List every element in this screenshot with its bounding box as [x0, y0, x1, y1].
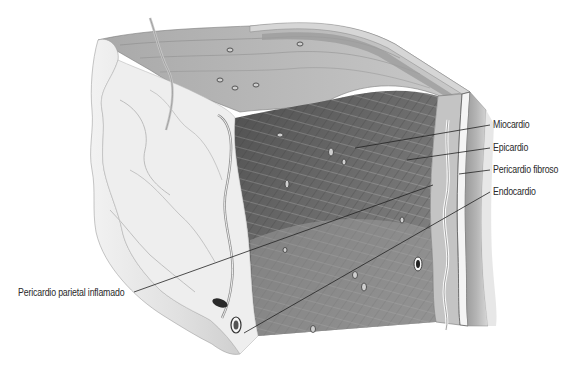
label-pericardio-fibroso: Pericardio fibroso [493, 164, 558, 175]
label-pericardio-parietal-inflamado: Pericardio parietal inflamado [18, 287, 124, 298]
label-endocardio: Endocardio [493, 186, 536, 197]
label-miocardio: Miocardio [493, 119, 530, 130]
label-epicardio: Epicardio [493, 142, 528, 153]
heart-wall-illustration [0, 0, 575, 371]
